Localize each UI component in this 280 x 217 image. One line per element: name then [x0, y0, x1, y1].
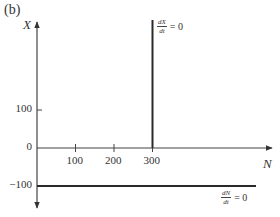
y-tick-label: 100 — [16, 102, 33, 114]
fraction-denominator: dt — [159, 27, 164, 35]
fraction-denominator: dt — [223, 198, 228, 206]
equals-zero: = 0 — [170, 21, 183, 32]
fraction-numerator: dN — [221, 189, 231, 198]
equals-zero: = 0 — [234, 192, 247, 203]
y-tick-label: −100 — [9, 178, 32, 190]
x-tick-label: 300 — [144, 154, 161, 166]
fraction-numerator: dX — [157, 18, 167, 27]
phase-plane — [0, 0, 280, 217]
panel-label: (b) — [4, 2, 20, 18]
x-tick-label: 200 — [105, 154, 122, 166]
y-axis-label: X — [23, 17, 31, 33]
x-tick-label: 100 — [67, 154, 84, 166]
fraction: dN dt — [221, 189, 231, 206]
fraction: dX dt — [157, 18, 167, 35]
y-tick-label: 0 — [27, 140, 33, 152]
nullcline-dX-label: dX dt = 0 — [157, 18, 183, 35]
x-axis-label: N — [263, 156, 272, 172]
nullcline-dN-label: dN dt = 0 — [221, 189, 247, 206]
